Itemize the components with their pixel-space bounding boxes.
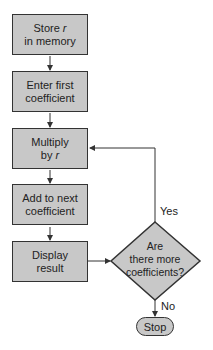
node-stop: Stop <box>136 317 174 336</box>
node-text: Multiply <box>31 136 68 149</box>
stop-label: Stop <box>144 321 167 333</box>
node-text: by r <box>41 149 59 162</box>
decision-text: Are there more coefficients? <box>118 240 192 279</box>
decision-line: coefficients? <box>118 266 192 279</box>
node-display-result: Display result <box>12 241 88 282</box>
node-text: coefficient <box>25 92 74 105</box>
node-text: result <box>37 262 64 275</box>
edge-decision-multiply-yes <box>90 148 155 222</box>
decision-line: there more <box>118 253 192 266</box>
edge-label-yes: Yes <box>160 205 178 217</box>
node-text: in memory <box>24 35 75 48</box>
node-text: Display <box>32 249 68 262</box>
node-multiply-by-r: Multiply by r <box>12 128 88 169</box>
node-add-to-next-coefficient: Add to next coefficient <box>12 184 88 225</box>
node-text: coefficient <box>25 205 74 218</box>
node-text: Store r <box>33 22 66 35</box>
edge-label-no: No <box>161 300 175 312</box>
node-text: Add to next <box>22 192 78 205</box>
node-text: Enter first <box>26 79 73 92</box>
node-enter-first-coefficient: Enter first coefficient <box>12 71 88 112</box>
node-store-r: Store r in memory <box>12 14 88 55</box>
decision-line: Are <box>118 240 192 253</box>
